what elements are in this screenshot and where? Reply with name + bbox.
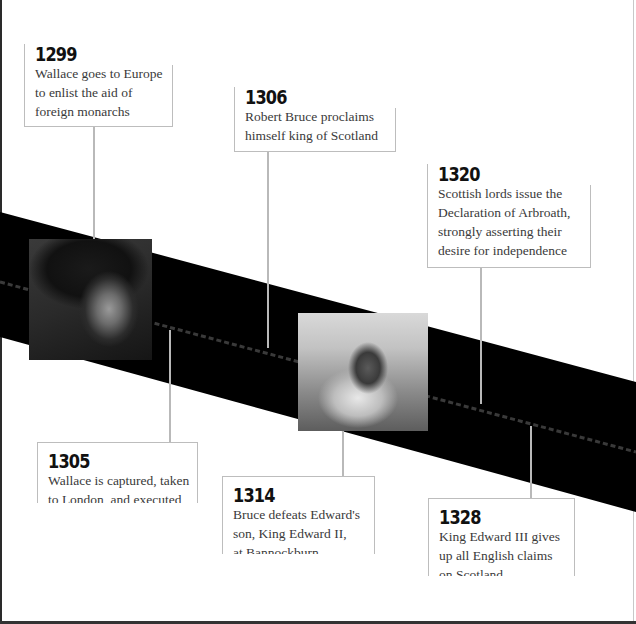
event-description-line: at Bannockburn [233, 543, 374, 554]
connector-1320 [480, 268, 482, 404]
event-1328: 1328 King Edward III gives up all Englis… [428, 498, 575, 576]
event-description-line: Wallace goes to Europe [35, 64, 173, 83]
event-1314: 1314 Bruce defeats Edward's son, King Ed… [222, 476, 375, 554]
event-description-line: son, King Edward II, [233, 524, 374, 543]
event-description-line: Bruce defeats Edward's [233, 505, 374, 524]
connector-1305 [169, 330, 171, 442]
event-year: 1299 [35, 44, 152, 64]
event-year: 1305 [48, 451, 175, 471]
box-right-border [395, 108, 397, 151]
event-description-line: King Edward III gives [439, 527, 574, 546]
event-year: 1320 [438, 164, 568, 184]
event-1306: 1306 Robert Bruce proclaims himself king… [234, 87, 396, 152]
event-1305: 1305 Wallace is captured, taken to Londo… [37, 442, 198, 503]
event-description-line: Declaration of Arbroath, [438, 203, 591, 222]
event-description-line: to London, and executed [48, 490, 197, 503]
box-right-border [590, 185, 592, 267]
event-description-line: up all English claims [439, 546, 574, 565]
event-description-line: to enlist the aid of [35, 83, 173, 102]
event-year: 1328 [439, 507, 554, 527]
box-right-border [172, 65, 174, 126]
connector-1328 [530, 426, 532, 498]
event-description-line: strongly asserting their [438, 222, 591, 241]
event-1299: 1299 Wallace goes to Europe to enlist th… [24, 44, 173, 127]
portrait-of-william-wallace [29, 239, 152, 360]
event-description-line: Robert Bruce proclaims [245, 107, 396, 126]
event-1320: 1320 Scottish lords issue the Declaratio… [427, 164, 591, 268]
event-description-line: himself king of Scotland [245, 126, 396, 145]
connector-1306 [267, 152, 269, 348]
event-description-line: foreign monarchs [35, 102, 173, 121]
event-description-line: Scottish lords issue the [438, 184, 591, 203]
event-description-line: Wallace is captured, taken [48, 471, 197, 490]
event-year: 1314 [233, 485, 353, 505]
battle-of-bannockburn-image [298, 313, 428, 431]
event-description-line: desire for independence [438, 241, 591, 260]
event-description-line: on Scotland [439, 565, 574, 576]
connector-1314 [342, 431, 344, 476]
event-year: 1306 [245, 87, 373, 107]
